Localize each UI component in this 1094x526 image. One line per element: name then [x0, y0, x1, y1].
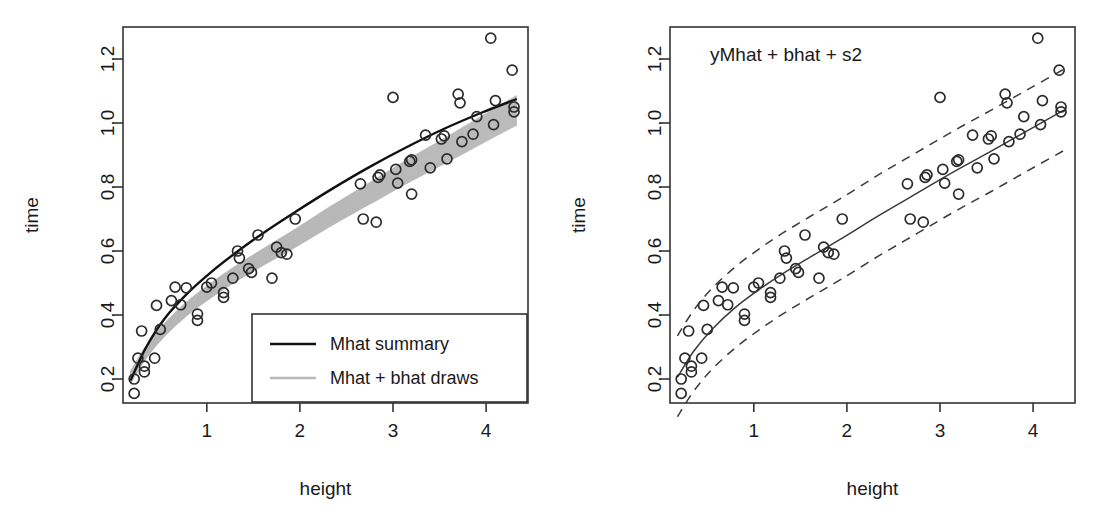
y-tick-label: 1.2 — [644, 46, 665, 72]
x-tick-label: 4 — [1028, 420, 1039, 441]
y-tick-label: 0.6 — [644, 238, 665, 264]
plot-frame — [670, 27, 1075, 403]
data-point — [192, 315, 202, 325]
data-point — [355, 179, 365, 189]
y-tick-label: 1.0 — [97, 110, 118, 136]
data-point — [905, 214, 915, 224]
data-point — [935, 92, 945, 102]
y-axis-title: time — [21, 197, 42, 233]
data-point — [922, 170, 932, 180]
data-point — [918, 217, 928, 227]
legend-label-2: Mhat + bhat draws — [330, 368, 479, 388]
data-point — [702, 324, 712, 334]
data-point — [902, 179, 912, 189]
x-tick-label: 3 — [935, 420, 946, 441]
y-tick-label: 0.4 — [97, 301, 118, 328]
data-point — [972, 163, 982, 173]
x-tick-label: 1 — [202, 420, 213, 441]
data-point — [814, 273, 824, 283]
data-point — [697, 353, 707, 363]
x-tick-label: 3 — [388, 420, 399, 441]
legend-label-1: Mhat summary — [330, 334, 449, 354]
data-point — [507, 65, 517, 75]
data-point — [490, 96, 500, 106]
axes-group: 0.20.40.60.81.01.21234heighttime — [21, 27, 528, 499]
y-tick-label: 0.4 — [644, 301, 665, 328]
legend: Mhat summaryMhat + bhat draws — [252, 314, 527, 402]
panel-right: 0.20.40.60.81.01.21234heighttimeyMhat + … — [547, 0, 1094, 526]
figure-canvas: 0.20.40.60.81.01.21234heighttimeMhat sum… — [0, 0, 1094, 526]
y-tick-label: 0.8 — [644, 174, 665, 200]
upper-band-curve — [677, 69, 1063, 336]
data-point — [968, 130, 978, 140]
data-point — [407, 189, 417, 199]
data-point — [676, 388, 686, 398]
data-point — [739, 315, 749, 325]
y-tick-label: 0.8 — [97, 174, 118, 200]
data-point — [1033, 33, 1043, 43]
data-point — [181, 283, 191, 293]
data-point — [699, 300, 709, 310]
chart-right-svg: 0.20.40.60.81.01.21234heighttimeyMhat + … — [547, 0, 1094, 526]
y-tick-label: 0.2 — [644, 366, 665, 392]
curves-group — [677, 69, 1063, 417]
data-point — [290, 214, 300, 224]
x-tick-label: 1 — [749, 420, 760, 441]
data-point — [150, 353, 160, 363]
data-point — [780, 246, 790, 256]
y-tick-label: 0.6 — [97, 238, 118, 264]
y-axis-title: time — [568, 197, 589, 233]
x-axis-title: height — [847, 478, 899, 499]
data-point — [723, 300, 733, 310]
data-point — [837, 214, 847, 224]
data-point — [170, 282, 180, 292]
points-group — [676, 33, 1066, 398]
data-point — [940, 178, 950, 188]
data-point — [371, 217, 381, 227]
data-point — [800, 230, 810, 240]
x-tick-label: 2 — [842, 420, 853, 441]
data-point — [486, 33, 496, 43]
data-point — [989, 154, 999, 164]
chart-left-svg: 0.20.40.60.81.01.21234heighttimeMhat sum… — [0, 0, 547, 526]
y-tick-label: 1.0 — [644, 110, 665, 136]
data-point — [129, 388, 139, 398]
data-point — [781, 253, 791, 263]
data-point — [676, 374, 686, 384]
data-point — [1037, 96, 1047, 106]
x-tick-label: 2 — [295, 420, 306, 441]
data-point — [137, 326, 147, 336]
y-tick-label: 0.2 — [97, 366, 118, 392]
axes-group: 0.20.40.60.81.01.21234heighttime — [568, 27, 1075, 499]
data-point — [388, 92, 398, 102]
panel-title: yMhat + bhat + s2 — [710, 44, 862, 65]
data-point — [1019, 112, 1029, 122]
data-point — [234, 253, 244, 263]
data-point — [717, 282, 727, 292]
data-point — [358, 214, 368, 224]
x-tick-label: 4 — [481, 420, 492, 441]
panel-left: 0.20.40.60.81.01.21234heighttimeMhat sum… — [0, 0, 547, 526]
fit-curve — [677, 110, 1063, 377]
y-tick-label: 1.2 — [97, 46, 118, 72]
x-axis-title: height — [300, 478, 352, 499]
data-point — [152, 300, 162, 310]
data-point — [728, 283, 738, 293]
data-point — [684, 326, 694, 336]
data-point — [954, 189, 964, 199]
data-point — [267, 273, 277, 283]
legend-box — [252, 314, 527, 402]
data-point — [938, 164, 948, 174]
